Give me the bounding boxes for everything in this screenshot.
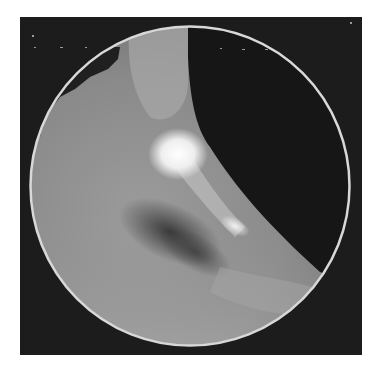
image-frame <box>20 17 362 355</box>
field-of-view <box>20 17 362 355</box>
endoscopic-photo <box>20 17 362 355</box>
specular-highlight <box>148 128 208 180</box>
